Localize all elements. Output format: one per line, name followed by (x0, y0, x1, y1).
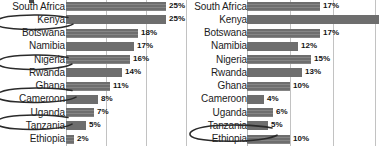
bar-container: 12% (247, 40, 379, 53)
value-label: 16% (133, 54, 149, 64)
category-label: Cameroon (201, 94, 247, 104)
bar-row: Nigeria16% (0, 53, 190, 66)
bar (66, 68, 122, 77)
category-label: Uganda (31, 108, 65, 118)
bar-row: Ethiopia2% (0, 133, 190, 146)
value-label: 8% (101, 94, 113, 104)
value-label: 17% (323, 28, 339, 38)
bar (66, 108, 94, 117)
bar (66, 95, 98, 104)
category-label: Cameroon (19, 94, 65, 104)
bar-row: Namibia12% (190, 40, 379, 53)
bar (247, 29, 320, 38)
value-label: 17% (323, 1, 339, 11)
dual-bar-chart-figure: South Africa25%Kenya25%Botswana18%Namibi… (0, 0, 379, 146)
category-label: Rwanda (211, 68, 247, 78)
bar (66, 29, 138, 38)
bar-row: Cameroon8% (0, 93, 190, 106)
bar (247, 82, 290, 91)
category-label: Kenya (219, 15, 247, 25)
value-label: 17% (137, 41, 153, 51)
bar-container (247, 13, 379, 26)
value-label: 6% (276, 107, 288, 117)
category-label: Rwanda (29, 68, 65, 78)
bar (247, 135, 290, 144)
bar (247, 121, 268, 130)
bar-container: 10% (247, 133, 379, 146)
bar-row: South Africa25% (0, 0, 190, 13)
bar-container: 18% (66, 27, 190, 40)
value-label: 14% (125, 67, 141, 77)
bar-row: Botswana18% (0, 27, 190, 40)
bar-container: 15% (247, 53, 379, 66)
bar-row: Cameroon4% (190, 93, 379, 106)
bar-row: Ethiopia10% (190, 133, 379, 146)
bar (247, 42, 298, 51)
bar-container: 17% (66, 40, 190, 53)
category-label: Ghana (217, 81, 247, 91)
bar-row: Nigeria15% (190, 53, 379, 66)
bar-row: Namibia17% (0, 40, 190, 53)
bar-row: Uganda6% (190, 106, 379, 119)
bar (247, 108, 273, 117)
value-label: 2% (77, 134, 89, 144)
bar-container: 2% (66, 133, 190, 146)
value-label: 5% (271, 120, 283, 130)
category-label: Ethiopia (30, 134, 65, 144)
bar-container: 7% (66, 106, 190, 119)
value-label: 25% (169, 14, 185, 24)
bar-container: 10% (247, 80, 379, 93)
bar-row: Ghana11% (0, 80, 190, 93)
value-label: 7% (97, 107, 109, 117)
bar (66, 42, 134, 51)
category-label: Nigeria (34, 55, 65, 65)
bar-container: 25% (66, 13, 190, 26)
category-label: Botswana (204, 28, 247, 38)
category-label: Botswana (22, 28, 65, 38)
bar-row: Tanzania5% (0, 119, 190, 132)
bar-container: 25% (66, 0, 190, 13)
category-label: Namibia (211, 41, 247, 51)
category-label: Tanzania (208, 121, 247, 131)
bar (247, 68, 302, 77)
value-label: 18% (141, 28, 157, 38)
chart-panel-right: South Africa17%KenyaBotswana17%Namibia12… (190, 0, 379, 146)
value-label: 12% (301, 41, 317, 51)
bar-container: 11% (66, 80, 190, 93)
bar-container: 17% (247, 0, 379, 13)
category-label: Tanzania (26, 121, 65, 131)
category-label: Nigeria (216, 55, 247, 65)
bar-rows-right: South Africa17%KenyaBotswana17%Namibia12… (190, 0, 379, 146)
bar (66, 2, 166, 11)
bar-row: Rwanda14% (0, 66, 190, 79)
bar (66, 121, 86, 130)
bar (66, 55, 130, 64)
bar-row: Botswana17% (190, 27, 379, 40)
bar-container: 17% (247, 27, 379, 40)
bar-row: Ghana10% (190, 80, 379, 93)
bar-container: 14% (66, 66, 190, 79)
bar-container: 6% (247, 106, 379, 119)
value-label: 5% (89, 120, 101, 130)
category-label: South Africa (12, 2, 65, 12)
bar-rows-left: South Africa25%Kenya25%Botswana18%Namibi… (0, 0, 190, 146)
bar-row: South Africa17% (190, 0, 379, 13)
bar-row: Tanzania5% (190, 119, 379, 132)
category-label: Namibia (29, 41, 65, 51)
bar (66, 135, 74, 144)
bar-container: 5% (66, 119, 190, 132)
bar-row: Kenya25% (0, 13, 190, 26)
bar-container: 8% (66, 93, 190, 106)
bar (247, 2, 320, 11)
value-label: 15% (314, 54, 330, 64)
bar-row: Uganda7% (0, 106, 190, 119)
bar-row: Kenya (190, 13, 379, 26)
bar-container: 5% (247, 119, 379, 132)
bar-container: 4% (247, 93, 379, 106)
value-label: 4% (267, 94, 279, 104)
bar (247, 95, 264, 104)
value-label: 11% (113, 81, 129, 91)
category-label: South Africa (194, 2, 247, 12)
bar (247, 55, 311, 64)
bar-container: 16% (66, 53, 190, 66)
